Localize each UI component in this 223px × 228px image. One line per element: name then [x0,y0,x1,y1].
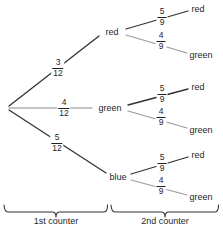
probability-branch-green-denominator: 12 [58,109,69,118]
probability-blue-red-denominator: 9 [159,164,166,173]
probability-red-green-numerator: 4 [158,31,165,40]
node-label-blue-red: red [191,150,204,160]
node-label-green-red: red [191,82,204,92]
probability-green-green-numerator: 4 [158,107,165,116]
probability-blue-red-numerator: 5 [159,153,166,162]
node-label-branch-red: red [105,27,118,37]
probability-blue-green-denominator: 9 [158,187,165,196]
brace-1st-counter-caption: 1st counter [34,216,79,226]
probability-green-green-denominator: 9 [158,118,165,127]
node-label-blue-green: green [189,192,212,202]
probability-branch-red-numerator: 3 [55,58,62,67]
node-label-red-green: green [189,50,212,60]
node-label-red-red: red [191,4,204,14]
node-label-branch-blue: blue [109,172,126,182]
probability-red-red-denominator: 9 [159,18,166,27]
node-label-branch-green: green [98,103,121,113]
probability-green-red-denominator: 9 [159,95,166,104]
probability-red-green-denominator: 9 [158,42,165,51]
probability-branch-blue-numerator: 5 [54,133,61,142]
probability-branch-red-denominator: 12 [52,69,63,78]
probability-red-red-numerator: 5 [159,7,166,16]
node-label-green-green: green [189,125,212,135]
probability-branch-green-numerator: 4 [61,98,68,107]
probability-red-red: 59 [157,7,168,27]
probability-tree-diagram: red312green412blue512red59green49red59gr… [0,0,223,228]
probability-blue-red: 59 [157,153,168,173]
probability-branch-blue-denominator: 12 [51,144,62,153]
probability-blue-green-numerator: 4 [158,176,165,185]
probability-green-red: 59 [157,84,168,104]
probability-blue-green: 49 [156,176,167,196]
probability-green-green: 49 [156,107,167,127]
probability-branch-blue: 512 [50,133,63,153]
probability-green-red-numerator: 5 [159,84,166,93]
probability-red-green: 49 [156,31,167,51]
brace-2nd-counter-caption: 2nd counter [141,216,189,226]
probability-branch-green: 412 [57,98,70,118]
probability-branch-red: 312 [51,58,64,78]
